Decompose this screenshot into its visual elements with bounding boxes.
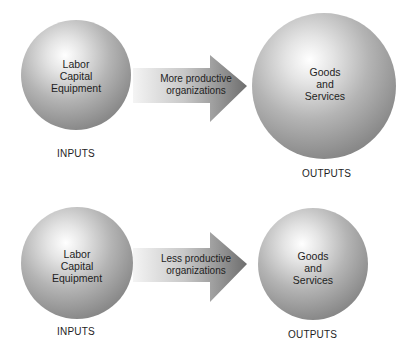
- process-line: organizations: [148, 85, 244, 97]
- outputs-line: Services: [290, 90, 360, 102]
- process-line: More productive: [148, 73, 244, 85]
- inputs-line: Labor: [21, 248, 133, 260]
- inputs-label-bottom: INPUTS: [57, 326, 95, 337]
- outputs-line: and: [278, 262, 348, 274]
- process-text-bottom: Less productive organizations: [148, 253, 244, 277]
- inputs-line: Equipment: [21, 272, 133, 284]
- outputs-line: Goods: [290, 66, 360, 78]
- outputs-text-top: Goods and Services: [290, 66, 360, 102]
- outputs-line: Goods: [278, 250, 348, 262]
- outputs-line: and: [290, 78, 360, 90]
- outputs-label-bottom: OUTPUTS: [288, 329, 337, 340]
- process-line: Less productive: [148, 253, 244, 265]
- inputs-line: Equipment: [21, 82, 131, 94]
- inputs-text-bottom: Labor Capital Equipment: [21, 248, 133, 284]
- process-text-top: More productive organizations: [148, 73, 244, 97]
- inputs-text-top: Labor Capital Equipment: [21, 58, 131, 94]
- inputs-line: Labor: [21, 58, 131, 70]
- outputs-line: Services: [278, 274, 348, 286]
- outputs-label-top: OUTPUTS: [302, 168, 351, 179]
- inputs-label-top: INPUTS: [57, 148, 95, 159]
- inputs-line: Capital: [21, 260, 133, 272]
- process-line: organizations: [148, 265, 244, 277]
- inputs-line: Capital: [21, 70, 131, 82]
- outputs-text-bottom: Goods and Services: [278, 250, 348, 286]
